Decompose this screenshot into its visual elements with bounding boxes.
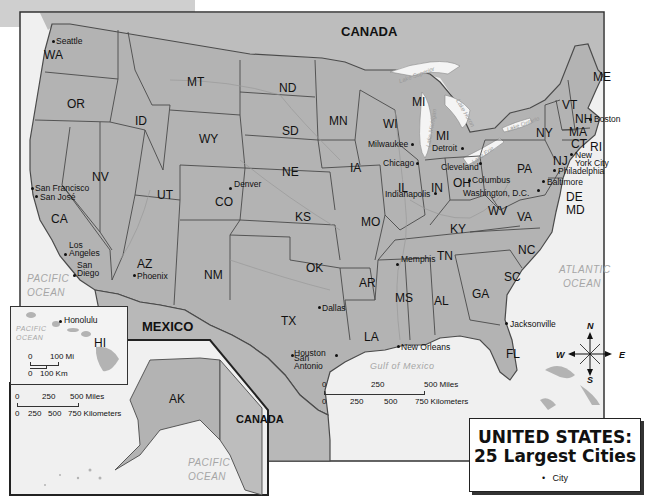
city-label: Honolulu [64, 316, 98, 325]
compass-rose-icon [562, 326, 618, 382]
city-dot-icon [479, 162, 482, 165]
state-label-nv: NV [92, 171, 109, 183]
city-label: Seattle [56, 37, 82, 46]
city-label: Washington, D.C. [463, 189, 529, 198]
state-label-mi: MI [412, 96, 425, 108]
state-label-mn: MN [329, 115, 348, 127]
state-label-va: VA [517, 211, 532, 223]
state-label-ut: UT [157, 189, 173, 201]
state-label-me: ME [593, 71, 611, 83]
city-dot-icon [505, 322, 508, 325]
state-label-ms: MS [395, 292, 413, 304]
state-label-co: CO [215, 196, 233, 208]
city-label: Jacksonville [510, 320, 556, 329]
state-label-wa: WA [44, 49, 63, 61]
state-label-fl: FL [506, 348, 520, 360]
city-label: Boston [594, 115, 620, 124]
state-label-hi: HI [94, 337, 106, 349]
ocean-label-atlantic: ATLANTIC [559, 265, 611, 275]
state-label-al: AL [434, 295, 449, 307]
state-label-ia: IA [350, 162, 361, 174]
ocean-label-pacific-hi: PACIFIC [16, 325, 47, 332]
state-label-tx: TX [281, 315, 296, 327]
gulf-of-mexico-label: Gulf of Mexico [370, 362, 435, 371]
state-label-ks: KS [295, 211, 311, 223]
ocean-label-pacific-hi-2: OCEAN [16, 334, 43, 341]
city-dot-icon [468, 179, 471, 182]
city-dot-icon [59, 320, 62, 323]
state-label-ok: OK [306, 262, 323, 274]
state-label-wy: WY [199, 133, 218, 145]
state-label-ky: KY [450, 223, 466, 235]
city-dot-icon [35, 195, 38, 198]
state-label-de: DE [566, 191, 583, 203]
city-dot-icon [434, 192, 437, 195]
city-dot-icon [31, 187, 34, 190]
state-label-wi: WI [383, 118, 398, 130]
state-label-tn: TN [437, 250, 453, 262]
state-label-ne: NE [282, 166, 299, 178]
city-dot-icon [542, 180, 545, 183]
city-dot-icon [335, 354, 338, 357]
city-label: San Antonio [294, 354, 328, 370]
legend-label: City [553, 473, 569, 483]
city-dot-icon [589, 118, 592, 121]
city-label: Denver [234, 180, 261, 189]
state-label-ny: NY [536, 127, 553, 139]
state-label-pa: PA [517, 163, 532, 175]
city-label: Baltimore [547, 178, 583, 187]
state-label-id: ID [135, 115, 147, 127]
city-label: Columbus [472, 176, 510, 185]
country-label-canada-inset: CANADA [236, 414, 284, 425]
city-dot-icon [64, 253, 67, 256]
city-dot-icon: • [542, 473, 545, 483]
state-label-in: IN [431, 182, 443, 194]
legend: • City [470, 473, 640, 483]
city-dot-icon [396, 263, 399, 266]
city-label: Phoenix [137, 272, 168, 281]
map-title-line2: 25 Largest Cities [470, 446, 640, 466]
city-label: San Diego [77, 261, 111, 277]
state-label-mo: MO [361, 216, 380, 228]
state-label-wv: WV [488, 205, 507, 217]
city-label: Philadelphia [558, 167, 604, 176]
compass-w: W [556, 351, 565, 360]
state-label-or: OR [67, 98, 85, 110]
city-label: Dallas [322, 304, 346, 313]
state-label-az: AZ [137, 258, 152, 270]
state-label-sc: SC [504, 271, 521, 283]
city-dot-icon [537, 189, 540, 192]
compass-s: S [587, 376, 593, 385]
state-label-mi: MI [436, 130, 449, 142]
city-label: San José [40, 193, 75, 202]
map-title-box: UNITED STATES: 25 Largest Cities • City [469, 418, 641, 492]
state-label-nm: NM [204, 269, 223, 281]
city-label: Detroit [432, 144, 457, 153]
state-label-nd: ND [279, 82, 296, 94]
city-label: Los Angeles [69, 241, 103, 257]
state-label-ga: GA [472, 288, 489, 300]
city-label: Memphis [401, 255, 435, 264]
city-label: New Orleans [401, 343, 450, 352]
country-label-mexico: MEXICO [142, 320, 193, 333]
city-label: Cleveland [441, 163, 479, 172]
city-dot-icon [52, 40, 55, 43]
city-dot-icon [318, 306, 321, 309]
country-label-canada: CANADA [341, 25, 397, 38]
ocean-label-atlantic-2: OCEAN [563, 279, 601, 289]
state-label-ak: AK [169, 393, 185, 405]
compass-n: N [587, 322, 594, 331]
city-dot-icon [229, 187, 232, 190]
state-label-vt: VT [562, 99, 577, 111]
city-dot-icon [73, 274, 76, 277]
city-dot-icon [570, 153, 573, 156]
state-label-ca: CA [51, 213, 68, 225]
city-label: Chicago [383, 159, 414, 168]
city-label: New York City [575, 151, 609, 167]
state-label-la: LA [364, 331, 379, 343]
compass-e: E [619, 351, 625, 360]
ocean-label-pacific-ak: PACIFIC [188, 458, 230, 468]
city-label: Indianapolis [385, 190, 430, 199]
city-dot-icon [416, 162, 419, 165]
state-label-ct: CT [571, 138, 587, 150]
